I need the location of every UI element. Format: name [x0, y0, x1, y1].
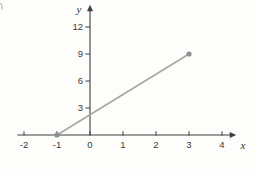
x-tick-label: 1 — [120, 139, 125, 150]
y-tick-label: 12 — [72, 21, 83, 32]
x-tick-label: 4 — [219, 139, 224, 150]
x-tick-label: 0 — [87, 139, 92, 150]
endpoint-dot — [54, 132, 59, 137]
x-tick-label: -1 — [53, 139, 61, 150]
stray-edge-mark — [1, 3, 3, 10]
x-axis-label: x — [240, 139, 246, 151]
y-tick-label: 9 — [78, 48, 83, 59]
endpoint-dot — [186, 51, 191, 56]
y-tick-label: 3 — [78, 102, 83, 113]
plot-group: -2-10123436912 — [17, 5, 236, 150]
x-tick-label: -2 — [20, 139, 28, 150]
x-axis-arrowhead-icon — [230, 132, 237, 138]
graph-svg: -2-10123436912 y x — [0, 0, 255, 174]
y-axis-arrowhead-icon — [87, 5, 93, 12]
segment-line — [57, 54, 189, 135]
x-tick-label: 2 — [153, 139, 158, 150]
y-axis-label: y — [76, 3, 82, 15]
coordinate-plane-figure: -2-10123436912 y x — [0, 0, 255, 174]
x-tick-label: 3 — [186, 139, 191, 150]
y-tick-label: 6 — [78, 75, 83, 86]
